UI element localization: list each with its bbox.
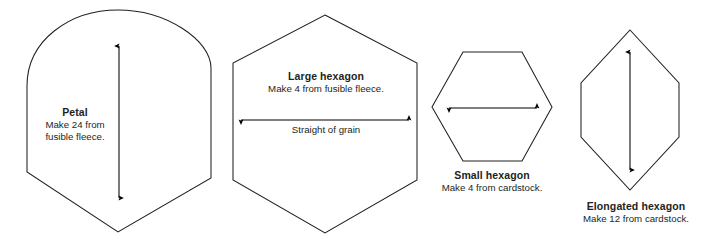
elongated-hexagon-title: Elongated hexagon: [562, 200, 710, 213]
large-hexagon-label: Large hexagon Make 4 from fusible fleece…: [248, 70, 404, 95]
elongated-hexagon-instruction-line-1: Make 12 from cardstock.: [562, 213, 710, 225]
small-hexagon-shape: [432, 52, 552, 161]
petal-title: Petal: [22, 106, 128, 119]
elongated-hexagon-label: Elongated hexagon Make 12 from cardstock…: [562, 200, 710, 225]
straight-of-grain-label: Straight of grain: [252, 124, 400, 135]
large-hexagon-instruction-line-1: Make 4 from fusible fleece.: [248, 83, 404, 95]
small-hexagon-title: Small hexagon: [428, 169, 556, 182]
small-hexagon-label: Small hexagon Make 4 from cardstock.: [428, 169, 556, 194]
petal-instruction-line-2: fusible fleece.: [22, 131, 128, 143]
small-hexagon-instruction-line-1: Make 4 from cardstock.: [428, 182, 556, 194]
petal-label: Petal Make 24 from fusible fleece.: [22, 106, 128, 142]
petal-instruction-line-1: Make 24 from: [22, 119, 128, 131]
pattern-sheet: Petal Make 24 from fusible fleece. Large…: [0, 0, 710, 244]
large-hexagon-title: Large hexagon: [248, 70, 404, 83]
